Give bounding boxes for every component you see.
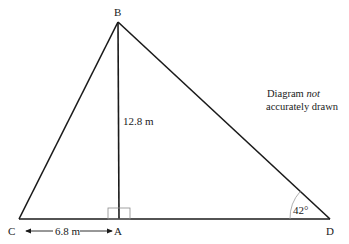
length-label-ca: 6.8 m: [55, 225, 81, 237]
angle-label-d: 42°: [293, 204, 308, 216]
length-label-ba: 12.8 m: [123, 115, 154, 127]
triangle-diagram: B C A D 12.8 m 6.8 m 42° Diagram not acc…: [0, 0, 349, 244]
diagram-note-line2: accurately drawn: [266, 101, 339, 112]
vertex-label-c: C: [8, 225, 15, 237]
vertex-label-b: B: [114, 6, 121, 18]
side-bc: [19, 22, 118, 219]
diagram-note-line1: Diagram not: [267, 88, 321, 99]
vertex-label-d: D: [326, 225, 334, 237]
vertex-label-a: A: [114, 225, 122, 237]
altitude-ba: [118, 22, 119, 219]
